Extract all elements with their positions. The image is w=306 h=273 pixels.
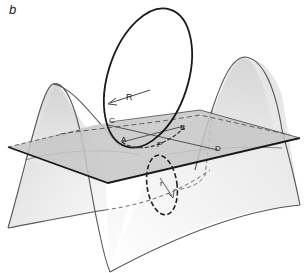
saddle-surface-diagram: b R r C A B P D: [0, 0, 306, 273]
label-R: R: [126, 92, 133, 102]
label-A: A: [121, 135, 127, 144]
label-P: P: [157, 140, 162, 149]
label-r: r: [160, 179, 163, 188]
label-C: C: [109, 116, 115, 125]
label-B: B: [180, 123, 185, 132]
label-D: D: [215, 144, 221, 153]
panel-label: b: [9, 2, 16, 17]
